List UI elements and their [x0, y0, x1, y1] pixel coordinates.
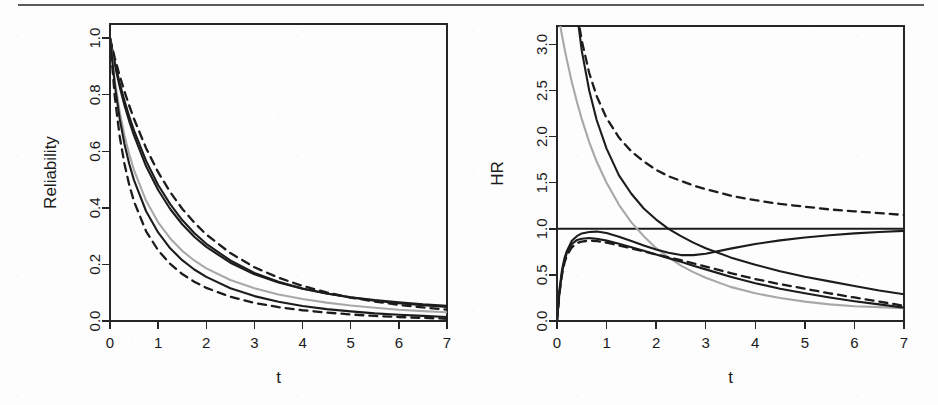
curve-upper-dashed-decay [557, 0, 904, 215]
x-tick-label: 3 [250, 334, 258, 351]
curve-steep-solid-decay [557, 0, 904, 294]
plot-frame [110, 24, 447, 321]
hr-plot-area: 012345670.00.51.01.52.02.53.0tHR [488, 0, 908, 387]
x-tick-label: 6 [850, 334, 858, 351]
hr-plot-svg: 012345670.00.51.01.52.02.53.0tHR [469, 0, 938, 405]
reliability-panel: 012345670.00.20.40.60.81.0tReliability [0, 0, 469, 405]
y-tick-label: 0.5 [533, 264, 550, 285]
y-tick-label: 2.0 [533, 126, 550, 147]
y-tick-label: 0.2 [86, 254, 103, 275]
x-tick-label: 0 [553, 334, 561, 351]
x-tick-label: 7 [443, 334, 451, 351]
y-tick-label: 1.0 [86, 28, 103, 49]
x-tick-label: 3 [702, 334, 710, 351]
x-tick-label: 1 [602, 334, 610, 351]
curve-upper-solid-b [110, 38, 447, 306]
y-tick-label: 0.0 [533, 311, 550, 332]
curve-lower-dashed-bound [110, 38, 447, 319]
y-axis-title: HR [488, 161, 507, 186]
y-tick-label: 0.0 [86, 311, 103, 332]
hr-panel: 012345670.00.51.01.52.02.53.0tHR [469, 0, 938, 405]
curves-group [557, 0, 904, 321]
x-tick-label: 4 [751, 334, 759, 351]
x-tick-label: 6 [395, 334, 403, 351]
figure-root: 012345670.00.20.40.60.81.0tReliability 0… [0, 0, 938, 405]
y-tick-label: 1.5 [533, 172, 550, 193]
x-tick-label: 1 [154, 334, 162, 351]
y-tick-label: 0.8 [86, 84, 103, 105]
curve-upper-dashed-bound [110, 38, 447, 310]
x-tick-label: 2 [652, 334, 660, 351]
reliability-plot-svg: 012345670.00.20.40.60.81.0tReliability [0, 0, 469, 405]
y-axis-title: Reliability [41, 136, 60, 209]
y-tick-label: 2.5 [533, 80, 550, 101]
curves-group [110, 38, 447, 319]
x-tick-label: 2 [202, 334, 210, 351]
x-tick-label: 4 [298, 334, 306, 351]
x-tick-label: 7 [900, 334, 908, 351]
x-tick-label: 5 [347, 334, 355, 351]
curve-upper-solid-a [110, 38, 447, 307]
y-tick-label: 3.0 [533, 34, 550, 55]
curve-lower-solid-decay [557, 238, 904, 321]
y-tick-label: 0.6 [86, 141, 103, 162]
x-tick-label: 0 [106, 334, 114, 351]
x-axis-title: t [728, 368, 733, 387]
x-axis-title: t [276, 368, 281, 387]
x-tick-label: 5 [801, 334, 809, 351]
y-tick-label: 1.0 [533, 218, 550, 239]
curve-rising-then-decay-dashed [557, 241, 904, 321]
curve-gray-decay [557, 8, 904, 309]
reliability-plot-area: 012345670.00.20.40.60.81.0tReliability [41, 24, 451, 387]
y-tick-label: 0.4 [86, 197, 103, 218]
